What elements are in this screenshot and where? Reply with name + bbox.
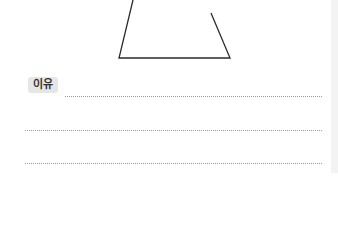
reason-label: 이유 xyxy=(28,77,58,93)
answer-line-1[interactable] xyxy=(65,96,322,97)
answer-line-3[interactable] xyxy=(25,163,322,164)
answer-line-2[interactable] xyxy=(25,130,322,131)
